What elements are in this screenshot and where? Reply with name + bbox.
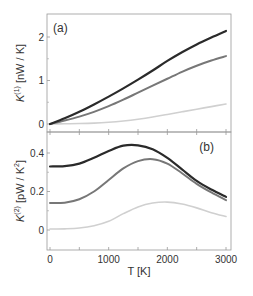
series-line-gray [50, 159, 226, 203]
y-tick-label: 2 [38, 32, 44, 43]
y-tick-label: 0 [38, 225, 44, 236]
series-line-black [50, 31, 226, 124]
y-tick-label: 0.2 [30, 186, 44, 197]
x-tick-label: 3000 [215, 254, 238, 265]
x-tick-label: 1000 [98, 254, 121, 265]
y-tick-label: 0 [38, 119, 44, 130]
y-tick-label: 1 [38, 75, 44, 86]
y-tick-label: 0.4 [30, 148, 44, 159]
panel-a: 012(a)K(1) [nW / K] [13, 14, 231, 135]
series-line-light [50, 202, 226, 229]
x-axis-label: T [K] [127, 265, 150, 277]
panel-label: (a) [53, 21, 68, 35]
x-tick-label: 2000 [156, 254, 179, 265]
y-axis-label: K(1) [nW / K] [13, 44, 26, 102]
y-axis-label: K(2) [pW / K2] [13, 160, 26, 222]
panel-label: (b) [199, 140, 214, 154]
x-tick-label: 0 [47, 254, 53, 265]
panel-b: 00.20.40100020003000T [K](b)K(2) [pW / K… [13, 132, 238, 277]
figure: 012(a)K(1) [nW / K]00.20.40100020003000T… [0, 0, 253, 296]
